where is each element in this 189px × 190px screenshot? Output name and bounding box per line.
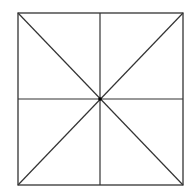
center-point: [98, 97, 102, 101]
geometry-diagram: [0, 0, 189, 190]
